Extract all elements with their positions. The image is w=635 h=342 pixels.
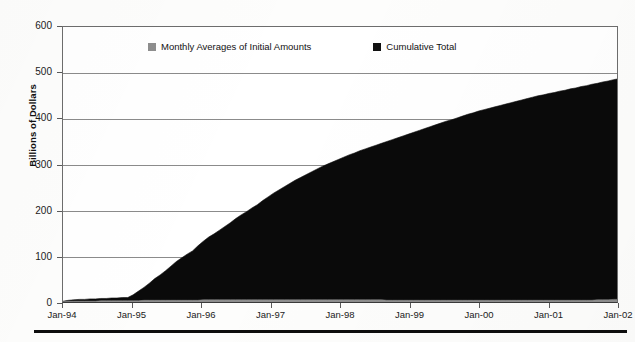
- x-axis-tick-mark: [340, 303, 341, 308]
- x-axis-tick-mark: [132, 303, 133, 308]
- y-axis-tick-label: 500: [18, 67, 52, 77]
- x-axis-tick-mark: [62, 303, 63, 308]
- y-axis-tick-label: 100: [18, 252, 52, 262]
- legend-swatch-cumulative-total: [373, 43, 381, 51]
- x-axis-tick-mark: [410, 303, 411, 308]
- y-axis-tick-label: 600: [18, 21, 52, 31]
- y-axis-tick-label: 0: [18, 298, 52, 308]
- x-axis-tick-label: Jan-99: [380, 310, 440, 320]
- x-axis-tick-label: Jan-00: [449, 310, 509, 320]
- y-axis-tick-label: 300: [18, 160, 52, 170]
- x-axis-tick-label: Jan-94: [32, 310, 92, 320]
- x-axis-tick-label: Jan-01: [519, 310, 579, 320]
- series-area-cumulative-total: [63, 79, 618, 303]
- x-axis-tick-mark: [549, 303, 550, 308]
- legend-label-monthly-averages: Monthly Averages of Initial Amounts: [161, 41, 311, 52]
- x-axis-tick-label: Jan-95: [102, 310, 162, 320]
- legend-swatch-monthly-averages: [148, 43, 156, 51]
- legend-entry-cumulative-total: Cumulative Total: [373, 41, 456, 52]
- legend-entry-monthly-averages: Monthly Averages of Initial Amounts: [148, 41, 311, 52]
- legend-label-cumulative-total: Cumulative Total: [386, 41, 456, 52]
- bottom-divider-rule: [34, 330, 627, 333]
- x-axis-tick-label: Jan-98: [310, 310, 370, 320]
- chart-figure: Billions of Dollars 0100200300400500600 …: [0, 0, 635, 342]
- x-axis-tick-mark: [479, 303, 480, 308]
- y-axis-tick-label: 400: [18, 113, 52, 123]
- x-axis-tick-mark: [271, 303, 272, 308]
- x-axis-tick-mark: [201, 303, 202, 308]
- x-axis-tick-label: Jan-02: [588, 310, 635, 320]
- y-axis-tick-label: 200: [18, 206, 52, 216]
- legend-spacer: [311, 46, 373, 47]
- x-axis-tick-label: Jan-97: [241, 310, 301, 320]
- plot-area: [62, 26, 618, 303]
- x-axis-tick-mark: [618, 303, 619, 308]
- series-layer: [63, 27, 618, 303]
- chart-legend: Monthly Averages of Initial Amounts Cumu…: [148, 41, 456, 52]
- x-axis-tick-label: Jan-96: [171, 310, 231, 320]
